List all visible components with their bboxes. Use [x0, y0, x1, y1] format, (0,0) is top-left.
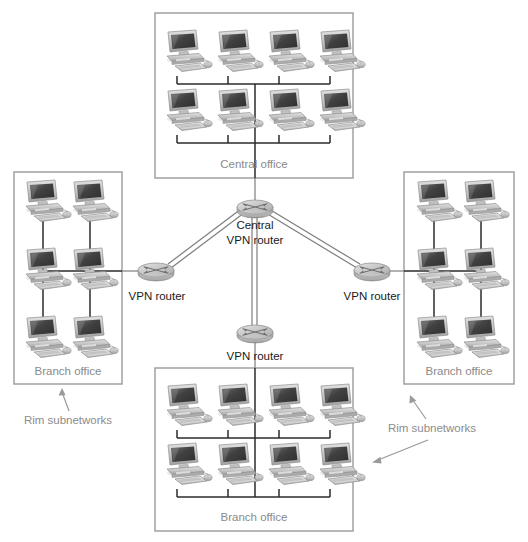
vpn-router-bottom-label: VPN router — [227, 350, 284, 362]
central-vpn-router-icon[interactable] — [237, 200, 273, 218]
vpn-router-right-icon[interactable] — [354, 263, 390, 281]
central-vpn-router-label-line2: VPN router — [227, 234, 284, 246]
office-label-branch-office-left: Branch office — [35, 365, 102, 377]
vpn-router-bottom-icon[interactable] — [237, 325, 273, 343]
diagram-canvas: Central office Branch office Branch offi… — [0, 0, 528, 542]
rim-subnetworks-right-label: Rim subnetworks — [388, 422, 476, 434]
vpn-router-right-label: VPN router — [344, 290, 401, 302]
central-vpn-router-label-line1: Central — [236, 219, 273, 231]
vpn-router-left-icon[interactable] — [138, 263, 174, 281]
rim-subnetworks-left-leader — [59, 388, 69, 411]
office-label-branch-office-bottom: Branch office — [221, 511, 288, 523]
network-topology-diagram: Central office Branch office Branch offi… — [0, 0, 528, 542]
office-label-central-office: Central office — [220, 158, 288, 170]
rim-subnetworks-right-leader-down — [372, 440, 428, 464]
office-label-branch-office-right: Branch office — [426, 365, 493, 377]
vpn-router-left-label: VPN router — [129, 290, 186, 302]
rim-subnetworks-right-leader-up — [409, 395, 426, 419]
rim-subnetworks-left-label: Rim subnetworks — [24, 414, 112, 426]
